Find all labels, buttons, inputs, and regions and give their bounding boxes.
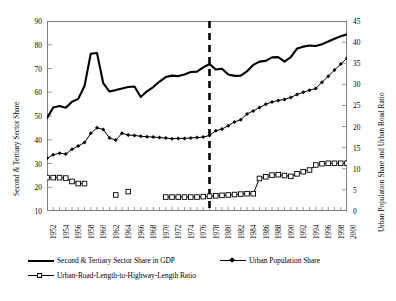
legend-item-2: Urban-Road-Length-to-Highway-Length Rati…	[28, 271, 196, 280]
legend-label-1: Urban Population Share	[249, 256, 320, 265]
y-axis-right-tick: 0	[353, 207, 369, 216]
x-axis-tick: 1964	[125, 225, 133, 239]
x-axis-tick: 1982	[238, 225, 246, 239]
y-axis-left-tick: 30	[26, 160, 42, 169]
y-axis-right-tick: 45	[353, 17, 369, 26]
legend-label-0: Second & Tertiary Sector Share in GDP	[57, 256, 175, 265]
x-axis-tick: 1978	[213, 225, 221, 239]
legend-marker-square-icon	[28, 271, 54, 280]
plot-area	[47, 21, 347, 211]
x-axis-tick: 2000	[350, 225, 358, 239]
x-axis-tick: 1958	[88, 225, 96, 239]
x-axis-tick: 1976	[200, 225, 208, 239]
chart-figure: Second & Tertiary Sector Share Urban Pop…	[0, 0, 396, 301]
y-axis-right-title: Urban Population Share and Urban Road Ra…	[378, 92, 386, 232]
y-axis-left-tick: 10	[26, 207, 42, 216]
y-axis-right-tick: 25	[353, 101, 369, 110]
x-axis-tick: 1998	[338, 225, 346, 239]
legend-marker-thick-line	[28, 256, 54, 265]
y-axis-left-tick: 70	[26, 65, 42, 74]
y-axis-right-tick: 20	[353, 123, 369, 132]
x-axis-tick: 1992	[300, 225, 308, 239]
x-axis-tick: 1996	[325, 225, 333, 239]
legend-item-0: Second & Tertiary Sector Share in GDP	[28, 256, 175, 265]
y-axis-left-tick: 50	[26, 112, 42, 121]
legend-marker-diamond-icon	[220, 256, 246, 265]
y-axis-left-tick: 90	[26, 17, 42, 26]
y-axis-left-title: Second & Tertiary Sector Share	[13, 182, 21, 196]
y-axis-left-tick: 60	[26, 88, 42, 97]
legend-item-1: Urban Population Share	[220, 256, 320, 265]
y-axis-left-tick: 20	[26, 183, 42, 192]
x-axis-tick: 1970	[163, 225, 171, 239]
x-axis-tick: 1988	[275, 225, 283, 239]
y-axis-left-tick: 80	[26, 41, 42, 50]
y-axis-right-tick: 30	[353, 80, 369, 89]
y-axis-right-tick: 10	[353, 165, 369, 174]
x-axis-tick: 1956	[75, 225, 83, 239]
x-axis-tick: 1954	[63, 225, 71, 239]
x-axis-tick: 1974	[188, 225, 196, 239]
x-axis-tick: 1984	[250, 225, 258, 239]
y-axis-right-tick: 35	[353, 59, 369, 68]
x-axis-tick: 1960	[100, 225, 108, 239]
x-axis-tick: 1986	[263, 225, 271, 239]
x-axis-tick: 1994	[313, 225, 321, 239]
y-axis-left-tick: 40	[26, 136, 42, 145]
legend-row-1: Second & Tertiary Sector Share in GDP Ur…	[28, 256, 373, 271]
y-axis-right-tick: 40	[353, 38, 369, 47]
x-axis-tick: 1980	[225, 225, 233, 239]
x-axis-tick: 1952	[50, 225, 58, 239]
plot-canvas	[47, 21, 347, 211]
chart-legend: Second & Tertiary Sector Share in GDP Ur…	[28, 256, 373, 286]
legend-row-2: Urban-Road-Length-to-Highway-Length Rati…	[28, 271, 373, 286]
legend-label-2: Urban-Road-Length-to-Highway-Length Rati…	[57, 271, 196, 280]
y-axis-right-tick: 15	[353, 144, 369, 153]
x-axis-tick: 1990	[288, 225, 296, 239]
x-axis-tick: 1968	[150, 225, 158, 239]
x-axis-tick: 1972	[175, 225, 183, 239]
x-axis-tick: 1962	[113, 225, 121, 239]
y-axis-right-tick: 5	[353, 186, 369, 195]
x-axis-tick: 1966	[138, 225, 146, 239]
